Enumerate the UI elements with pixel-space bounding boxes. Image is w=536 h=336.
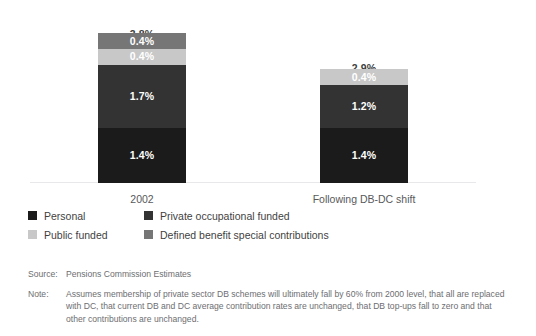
legend-swatch-icon [28,230,37,239]
legend-item-label: Public funded [44,229,108,241]
bar-segment-public-funded[interactable]: 0.4% [98,49,186,65]
legend-item-defined-benefit-special-contributions[interactable]: Defined benefit special contributions [144,229,329,241]
bar-segment-value-label: 1.2% [352,101,376,112]
bar-segment-value-label: 1.4% [352,150,376,161]
source-value-text: Pensions Commission Estimates [66,268,508,280]
bar-segment-value-label: 1.4% [130,150,154,161]
legend-item-private-occupational-funded[interactable]: Private occupational funded [144,210,290,222]
x-axis-category-label-2002: 2002 [58,193,226,205]
bar-segment-private-occupational-funded[interactable]: 1.2% [320,85,408,128]
bar-segment-personal[interactable]: 1.4% [98,128,186,183]
bar-stack-2002: 0.4% 0.4% 1.7% 1.4% [98,33,186,183]
bar-group-2002: 3.8% 0.4% 0.4% 1.7% 1.4% 2002 [98,14,186,196]
bar-segment-value-label: 0.4% [130,36,154,47]
bar-segment-private-occupational-funded[interactable]: 1.7% [98,65,186,128]
note-value-text: Assumes membership of private sector DB … [66,288,508,325]
legend-swatch-icon [144,230,153,239]
bar-segment-value-label: 0.4% [130,51,154,62]
legend-swatch-icon [144,211,153,220]
note-block: Note: Assumes membership of private sect… [28,288,508,325]
bar-segment-public-funded[interactable]: 0.4% [320,69,408,85]
legend-row-2: Public funded Defined benefit special co… [28,225,498,244]
legend-item-label: Defined benefit special contributions [160,229,329,241]
legend-swatch-icon [28,211,37,220]
bar-stack-following-db-dc-shift: 0.4% 1.2% 1.4% [320,69,408,183]
bar-group-following-db-dc-shift: 2.9% 0.4% 1.2% 1.4% Following DB-DC shif… [320,14,408,196]
source-key-label: Source: [28,268,66,280]
x-axis-baseline [30,182,476,183]
note-key-label: Note: [28,288,66,325]
x-axis-category-label-following-db-dc-shift: Following DB-DC shift [280,193,448,205]
bar-segment-value-label: 0.4% [352,72,376,83]
legend-item-label: Private occupational funded [160,210,290,222]
chart-footnotes: Source: Pensions Commission Estimates No… [28,268,508,333]
legend-item-public-funded[interactable]: Public funded [28,229,144,241]
bar-segment-db-special-contributions[interactable]: 0.4% [98,33,186,49]
bar-segment-value-label: 1.7% [130,91,154,102]
chart-legend: Personal Private occupational funded Pub… [28,206,498,244]
legend-row-1: Personal Private occupational funded [28,206,498,225]
legend-item-label: Personal [44,210,85,222]
bar-segment-personal[interactable]: 1.4% [320,128,408,183]
source-block: Source: Pensions Commission Estimates [28,268,508,280]
legend-item-personal[interactable]: Personal [28,210,144,222]
chart-plot-area: 3.8% 0.4% 0.4% 1.7% 1.4% 2002 2.9% 0.4% [0,0,536,196]
